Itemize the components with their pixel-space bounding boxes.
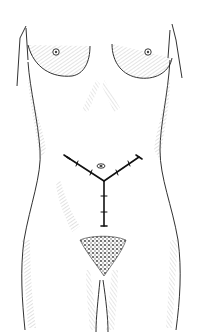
torso-shading xyxy=(22,80,178,330)
breasts xyxy=(28,44,172,78)
navel xyxy=(97,164,105,168)
y-incision-line xyxy=(64,155,142,226)
torso-drawing xyxy=(0,0,200,333)
anatomical-illustration xyxy=(0,0,200,333)
